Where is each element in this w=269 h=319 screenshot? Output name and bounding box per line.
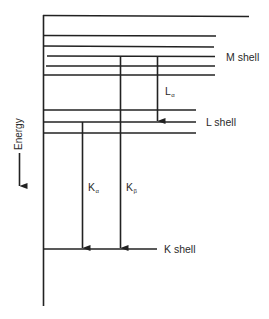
l-alpha-sub: α (171, 92, 174, 98)
m-shell-level-2 (43, 46, 214, 47)
top-level-line (43, 16, 249, 17)
k-alpha-label: Kα (88, 182, 99, 194)
l-shell-label: L shell (206, 117, 236, 128)
m-shell-level-1 (43, 36, 216, 37)
energy-axis-label: Energy (14, 118, 24, 150)
m-shell-label: M shell (226, 52, 259, 63)
k-beta-main: K (126, 181, 133, 193)
k-shell-label: K shell (164, 244, 196, 255)
k-alpha-sub: α (96, 188, 99, 194)
k-beta-sub: β (134, 188, 137, 194)
l-alpha-label: Lα (165, 86, 175, 98)
m-shell-level-3 (47, 56, 215, 57)
k-alpha-main: K (88, 181, 95, 193)
l-alpha-main: L (165, 85, 171, 97)
k-beta-label: Kβ (126, 182, 137, 194)
energy-level-diagram (0, 0, 269, 319)
